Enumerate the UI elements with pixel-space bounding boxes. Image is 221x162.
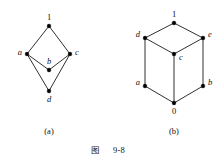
edge-d-c bbox=[145, 38, 174, 54]
edge-1-e bbox=[174, 23, 203, 38]
node-dot-panel-b-0 bbox=[172, 101, 176, 105]
node-dot-panel-b-e bbox=[201, 36, 205, 40]
node-label-panel-b-d: d bbox=[136, 29, 141, 39]
nodes-layer bbox=[25, 21, 205, 105]
figure-caption-cjk: 图 bbox=[91, 145, 100, 155]
node-dot-panel-a-d bbox=[47, 89, 51, 93]
node-label-panel-a-1: 1 bbox=[47, 12, 51, 22]
figure-caption-number: 9-8 bbox=[113, 145, 125, 155]
figure-container: 1acbd1decab0 (a)(b) 图 9-8 bbox=[0, 0, 221, 162]
node-label-panel-a-d: d bbox=[47, 94, 52, 104]
node-label-panel-b-c: c bbox=[179, 52, 183, 62]
sublabel-panel-b: (b) bbox=[169, 126, 179, 136]
node-label-panel-a-b: b bbox=[47, 56, 51, 66]
node-dot-panel-b-c bbox=[172, 52, 176, 56]
edge-b-c bbox=[49, 54, 70, 70]
node-labels-layer: 1acbd1decab0 bbox=[18, 9, 213, 116]
edge-1-c bbox=[49, 26, 70, 54]
hasse-diagram-figure: 1acbd1decab0 (a)(b) 图 9-8 bbox=[0, 0, 221, 162]
edges-layer bbox=[27, 23, 203, 103]
edge-1-d bbox=[145, 23, 174, 38]
edge-1-a bbox=[27, 26, 49, 54]
node-label-panel-a-a: a bbox=[18, 47, 22, 57]
edge-c-d bbox=[49, 54, 70, 91]
node-label-panel-b-b: b bbox=[208, 77, 212, 87]
node-dot-panel-a-c bbox=[68, 52, 72, 56]
edge-b-0 bbox=[174, 86, 203, 103]
node-dot-panel-b-b bbox=[201, 84, 205, 88]
panel-sublabels-layer: (a)(b) bbox=[44, 126, 179, 136]
node-label-panel-b-0: 0 bbox=[172, 106, 176, 116]
node-dot-panel-b-1 bbox=[172, 21, 176, 25]
node-dot-panel-b-d bbox=[143, 36, 147, 40]
node-label-panel-b-1: 1 bbox=[172, 9, 176, 19]
node-dot-panel-b-a bbox=[143, 84, 147, 88]
edge-a-0 bbox=[145, 86, 174, 103]
edge-a-b bbox=[27, 54, 49, 70]
sublabel-panel-a: (a) bbox=[44, 126, 54, 136]
node-label-panel-a-c: c bbox=[75, 47, 79, 57]
node-dot-panel-a-a bbox=[25, 52, 29, 56]
node-dot-panel-a-b bbox=[47, 68, 51, 72]
node-label-panel-b-e: e bbox=[208, 29, 212, 39]
node-label-panel-b-a: a bbox=[136, 77, 140, 87]
node-dot-panel-a-1 bbox=[47, 24, 51, 28]
edge-a-d bbox=[27, 54, 49, 91]
